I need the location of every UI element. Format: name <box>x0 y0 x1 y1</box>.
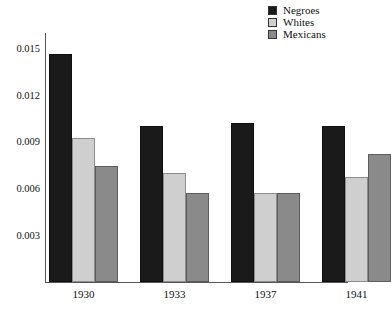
y-tick-label: 0.015 <box>16 44 40 55</box>
bars-layer <box>45 33 348 283</box>
bar-mexicans-1930 <box>95 166 118 282</box>
bar-mexicans-1941 <box>368 154 391 282</box>
legend-label-negroes: Negroes <box>283 5 320 16</box>
y-tick-label: 0.003 <box>16 231 40 242</box>
legend-item-negroes: Negroes <box>268 5 326 16</box>
y-tick-label: 0.009 <box>16 137 40 148</box>
bar-whites-1937 <box>254 193 277 282</box>
bar-negroes-1941 <box>322 126 345 282</box>
x-tick-label-1937: 1937 <box>231 289 300 300</box>
bar-negroes-1937 <box>231 123 254 282</box>
bar-mexicans-1937 <box>277 193 300 282</box>
bar-negroes-1930 <box>49 54 72 282</box>
legend-swatch-negroes <box>268 6 277 15</box>
y-tick-label: 0.006 <box>16 184 40 195</box>
legend-swatch-whites <box>268 18 277 27</box>
x-tick-label-1933: 1933 <box>140 289 209 300</box>
bar-whites-1930 <box>72 138 95 282</box>
bar-whites-1933 <box>163 173 186 282</box>
bar-negroes-1933 <box>140 126 163 282</box>
legend-item-whites: Whites <box>268 17 326 28</box>
x-tick-label-1941: 1941 <box>322 289 391 300</box>
plot-area: 0.0030.0060.0090.0120.015 <box>45 33 348 283</box>
bar-whites-1941 <box>345 177 368 282</box>
legend-label-whites: Whites <box>283 17 314 28</box>
bar-mexicans-1933 <box>186 193 209 282</box>
x-tick-label-1930: 1930 <box>49 289 118 300</box>
y-tick-label: 0.012 <box>16 91 40 102</box>
